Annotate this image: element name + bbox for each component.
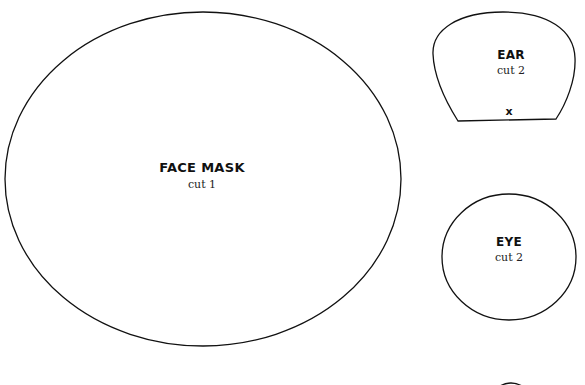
- face-mask-instruction: cut 1: [188, 178, 216, 191]
- ear-fold-mark: x: [505, 105, 512, 118]
- ear-title: EAR: [497, 48, 525, 62]
- ear-instruction: cut 2: [497, 64, 525, 77]
- eye-instruction: cut 2: [495, 251, 523, 264]
- eye-title: EYE: [496, 235, 522, 249]
- face-mask-title: FACE MASK: [159, 160, 245, 175]
